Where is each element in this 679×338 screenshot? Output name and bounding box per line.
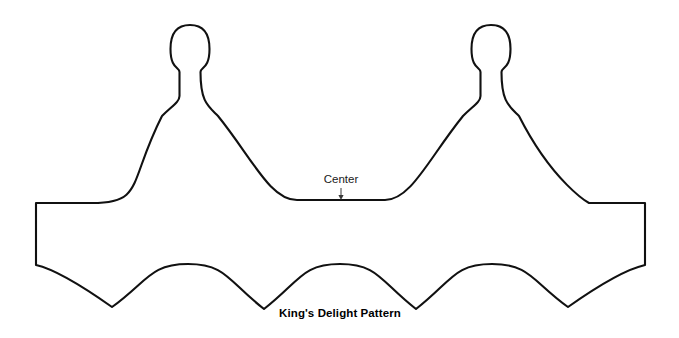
pattern-diagram: Center King's Delight Pattern: [0, 0, 679, 338]
pattern-title: King's Delight Pattern: [279, 307, 401, 319]
center-label: Center: [324, 173, 359, 185]
pattern-outline-shape: [36, 25, 645, 309]
